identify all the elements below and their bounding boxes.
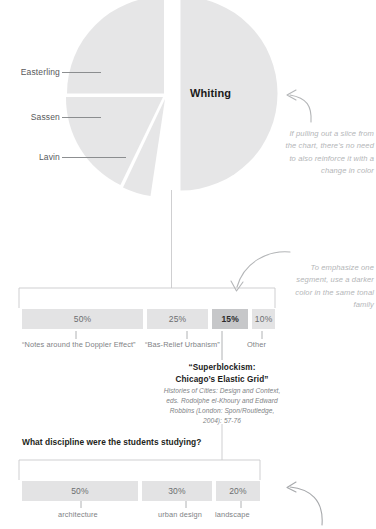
bar-segment-3-emphasis[interactable]: 15% xyxy=(212,309,248,329)
stacked-bar-bottom: 50% 30% 20% xyxy=(22,481,260,503)
question-heading: What discipline were the students studyi… xyxy=(22,437,201,447)
bar-segment-1[interactable]: 50% xyxy=(22,309,143,329)
callout-citation: Histories of Cities: Design and Context,… xyxy=(147,386,297,426)
pie-label-lavin: Lavin xyxy=(4,153,60,162)
callout-cite-line1: Histories of Cities: Design and Context, xyxy=(147,386,297,396)
callout-cite-line4: 2004): 57-76 xyxy=(147,416,297,426)
callout-cite-line2: eds. Rodolphe el-Khoury and Edward xyxy=(147,396,297,406)
annotation-arrowhead-emphasis xyxy=(231,281,243,291)
annotation-arrow-emphasis xyxy=(237,252,290,287)
stacked-bar-top: 50% 25% 15% 10% xyxy=(22,309,275,331)
annotation-arrowhead-pie xyxy=(287,90,296,100)
bar-bottom-caption-1: architecture xyxy=(58,511,98,518)
bar-segment-2[interactable]: 25% xyxy=(147,309,208,329)
pie-slice-easterling xyxy=(67,0,164,94)
pie-slice-sassen xyxy=(66,97,163,185)
bracket-bottom-bar xyxy=(19,460,260,480)
bottom-arrow xyxy=(290,487,322,525)
bar-bottom-caption-2: urban design xyxy=(158,511,202,518)
annotation-emphasis-color: To emphasize one segment, use a darker c… xyxy=(294,262,374,311)
bar-caption-2: “Bas-Relief Urbanism” xyxy=(145,341,220,348)
bar-bottom-segment-1[interactable]: 50% xyxy=(22,481,138,501)
callout-title-line2: Chicago’s Elastic Grid” xyxy=(152,374,292,386)
pie-label-whiting: Whiting xyxy=(190,87,231,99)
callout-title-line1: “Superblockism: xyxy=(152,362,292,374)
bar-bottom-segment-3[interactable]: 20% xyxy=(216,481,260,501)
bottom-arrowhead xyxy=(287,482,296,492)
callout-cite-line3: Robbins (London: Spon/Routledge, xyxy=(147,406,297,416)
callout-title: “Superblockism: Chicago’s Elastic Grid” xyxy=(152,362,292,386)
figure-canvas: Easterling Sassen Lavin Whiting If pulli… xyxy=(0,0,376,529)
bar-caption-1: “Notes around the Doppler Effect” xyxy=(22,341,136,348)
bar-caption-4: Other xyxy=(247,341,266,348)
bar-bottom-caption-3: landscape xyxy=(215,511,250,518)
annotation-pulled-slice: If pulling out a slice from the chart, t… xyxy=(284,128,374,177)
pie-slice-lavin xyxy=(123,99,165,196)
pie-label-easterling: Easterling xyxy=(4,68,60,77)
pie-label-sassen: Sassen xyxy=(4,113,60,122)
bracket-top-bar xyxy=(19,288,275,308)
bar-bottom-segment-2[interactable]: 30% xyxy=(142,481,212,501)
bar-segment-4[interactable]: 10% xyxy=(252,309,275,329)
annotation-arrow-pie xyxy=(290,95,311,122)
